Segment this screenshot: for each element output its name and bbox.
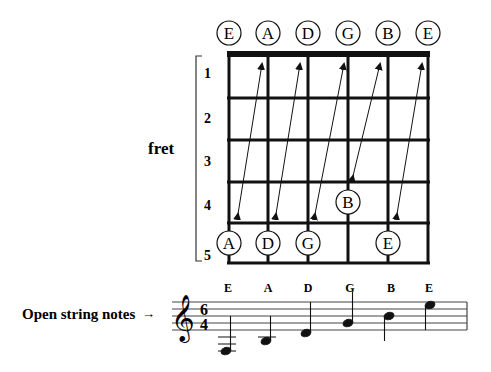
fret-number: 5 [204, 248, 211, 263]
string-header-note: B [376, 21, 400, 45]
fretted-note: E [376, 231, 400, 255]
fretboard-grid [227, 51, 430, 264]
fretted-note: B [336, 190, 360, 214]
note-label: E [425, 281, 433, 295]
fret-axis: fret 1 2 3 4 5 [148, 56, 211, 263]
string-header-note: E [416, 21, 440, 45]
fret-bracket [196, 56, 202, 261]
svg-text:B: B [342, 193, 353, 212]
fret-number: 3 [204, 154, 211, 169]
string-header-note: D [296, 21, 320, 45]
svg-text:D: D [262, 234, 274, 253]
fret-number: 4 [204, 198, 211, 213]
note-label: A [264, 281, 273, 295]
string-name-label: B [382, 24, 393, 43]
svg-text:A: A [223, 234, 236, 253]
string-header: E A D G B E [217, 21, 440, 45]
note-label: G [345, 281, 354, 295]
string-header-note: G [336, 21, 360, 45]
staff-lines [172, 302, 467, 330]
time-signature-bottom: 4 [200, 316, 208, 333]
fret-number: 1 [204, 66, 211, 81]
string-name-label: E [224, 24, 234, 43]
fretboard-diagram: E A D G B E fret 1 2 3 4 5 [0, 0, 491, 372]
nut [227, 51, 430, 57]
string-name-label: G [342, 24, 354, 43]
fretted-note: G [296, 231, 320, 255]
treble-clef-icon: 𝄞 [171, 294, 195, 343]
string-name-label: D [302, 24, 314, 43]
note-label: E [224, 281, 232, 295]
string-name-label: A [262, 24, 275, 43]
note-label: B [387, 281, 395, 295]
string-header-note: A [256, 21, 280, 45]
staff-section: Open string notes → 𝄞 6 4 E A D G B E [22, 281, 467, 356]
svg-text:G: G [302, 234, 314, 253]
string-header-note: E [217, 21, 241, 45]
fret-number: 2 [204, 111, 211, 126]
fretted-note: D [256, 231, 280, 255]
fret-axis-label: fret [148, 139, 174, 158]
caption-arrow-icon: → [142, 306, 155, 321]
double-arrow [353, 64, 380, 176]
note-label: D [304, 281, 313, 295]
svg-text:E: E [383, 234, 393, 253]
fretted-note: A [217, 231, 241, 255]
string-name-label: E [423, 24, 433, 43]
staff-caption: Open string notes [22, 306, 136, 322]
